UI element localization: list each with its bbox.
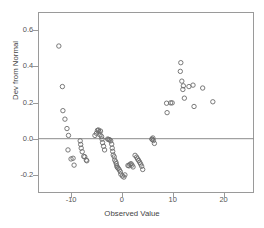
data-point — [63, 117, 67, 121]
data-point — [180, 79, 184, 83]
plot-canvas — [38, 12, 254, 193]
y-tick-mark — [33, 66, 38, 67]
data-points-layer — [57, 44, 215, 179]
y-tick-label: -0.2 — [3, 171, 33, 179]
data-point — [192, 104, 196, 108]
data-point — [60, 84, 64, 88]
data-point — [66, 133, 70, 137]
data-point — [66, 148, 70, 152]
x-tick-mark — [224, 193, 225, 198]
y-tick-mark — [33, 103, 38, 104]
y-tick-mark — [33, 139, 38, 140]
data-point — [191, 83, 195, 87]
data-point — [165, 110, 169, 114]
data-point — [61, 108, 65, 112]
y-tick-mark — [33, 30, 38, 31]
x-tick-mark — [71, 193, 72, 198]
data-point — [211, 100, 215, 104]
x-axis-label: Observed Value — [0, 209, 264, 218]
x-tick-mark — [173, 193, 174, 198]
data-point — [182, 96, 186, 100]
y-axis-label: Dev from Normal — [11, 28, 20, 114]
y-tick-label: 0.0 — [3, 135, 33, 143]
data-point — [72, 163, 76, 167]
data-point — [152, 141, 156, 145]
data-point — [57, 44, 61, 48]
data-point — [179, 60, 183, 64]
x-tick-mark — [122, 193, 123, 198]
scatter-plot: -0.20.00.20.40.6 -1001020 Dev from Norma… — [0, 0, 264, 228]
y-tick-mark — [33, 175, 38, 176]
data-point — [65, 126, 69, 130]
data-point — [200, 86, 204, 90]
data-point — [178, 69, 182, 73]
